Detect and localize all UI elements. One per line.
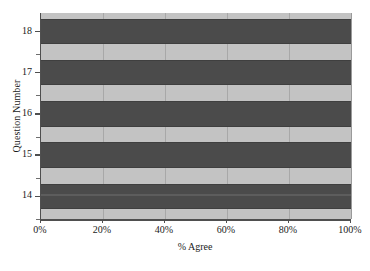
x-tick-label: 100%: [327, 224, 370, 235]
y-tick-label: 14: [8, 189, 32, 200]
bar-question-17: [41, 60, 351, 86]
y-tick-minor: [36, 219, 40, 220]
y-tick-label: 16: [8, 107, 32, 118]
x-axis-line: [40, 219, 351, 221]
x-tick-label: 20%: [79, 224, 125, 235]
bar-question-16: [41, 101, 351, 127]
y-tick: [35, 113, 40, 115]
x-tick: [350, 219, 351, 223]
x-tick-label: 60%: [203, 224, 249, 235]
x-tick-label: 80%: [265, 224, 311, 235]
y-tick: [35, 196, 40, 198]
y-tick-minor: [36, 137, 40, 138]
y-tick-label: 18: [8, 25, 32, 36]
plot-inner: [41, 13, 351, 219]
chart-figure: Question Number % Agree 0%20%40%60%80%10…: [0, 0, 370, 271]
y-tick: [35, 72, 40, 74]
x-tick-label: 40%: [141, 224, 187, 235]
bar-question-18: [41, 19, 351, 45]
x-axis-title: % Agree: [40, 241, 350, 252]
x-tick: [226, 219, 227, 223]
y-tick-label: 15: [8, 148, 32, 159]
y-tick-minor: [36, 178, 40, 179]
x-tick: [102, 219, 103, 223]
bar-question-15: [41, 142, 351, 168]
y-tick-minor: [36, 54, 40, 55]
plot-area: [40, 13, 352, 219]
x-tick: [40, 219, 41, 223]
y-tick: [35, 31, 40, 33]
y-tick-label: 17: [8, 66, 32, 77]
bar-question-14: [41, 184, 351, 210]
x-tick-label: 0%: [17, 224, 63, 235]
y-tick-minor: [36, 95, 40, 96]
x-tick: [288, 219, 289, 223]
x-tick: [164, 219, 165, 223]
y-tick: [35, 154, 40, 156]
